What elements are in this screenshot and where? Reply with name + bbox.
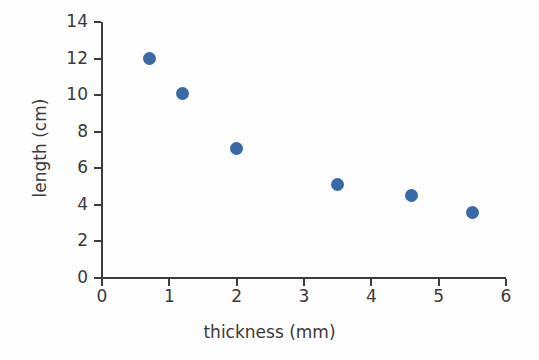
scatter-plot-figure: 02468101214 0123456 thickness (mm) lengt… [0, 0, 539, 360]
y-tick-mark [94, 21, 101, 23]
x-axis-label: thickness (mm) [0, 322, 539, 342]
y-tick-mark [94, 204, 101, 206]
x-tick-mark [370, 279, 372, 286]
y-tick-mark [94, 167, 101, 169]
x-tick-mark [438, 279, 440, 286]
y-tick-label: 8 [58, 123, 88, 140]
x-tick-mark [101, 279, 103, 286]
y-tick-label: 12 [58, 50, 88, 67]
x-tick-label: 3 [289, 288, 319, 305]
x-tick-mark [505, 279, 507, 286]
data-point [331, 178, 344, 191]
data-point [405, 189, 418, 202]
y-tick-mark [94, 240, 101, 242]
data-point [143, 52, 156, 65]
data-point [176, 87, 189, 100]
x-tick-label: 2 [222, 288, 252, 305]
x-tick-mark [168, 279, 170, 286]
x-tick-label: 1 [154, 288, 184, 305]
y-tick-label: 14 [58, 13, 88, 30]
y-tick-label: 6 [58, 159, 88, 176]
y-tick-mark [94, 131, 101, 133]
y-tick-label: 4 [58, 196, 88, 213]
y-tick-label: 10 [58, 86, 88, 103]
y-axis-line [101, 22, 103, 279]
x-tick-mark [236, 279, 238, 286]
data-point [230, 142, 243, 155]
x-tick-label: 5 [424, 288, 454, 305]
y-tick-mark [94, 94, 101, 96]
y-tick-mark [94, 277, 101, 279]
y-axis-label: length (cm) [30, 68, 50, 228]
x-tick-mark [303, 279, 305, 286]
x-tick-label: 0 [87, 288, 117, 305]
y-tick-label: 2 [58, 232, 88, 249]
y-tick-label: 0 [58, 269, 88, 286]
y-tick-mark [94, 58, 101, 60]
x-tick-label: 4 [356, 288, 386, 305]
data-point [466, 206, 479, 219]
x-tick-label: 6 [491, 288, 521, 305]
